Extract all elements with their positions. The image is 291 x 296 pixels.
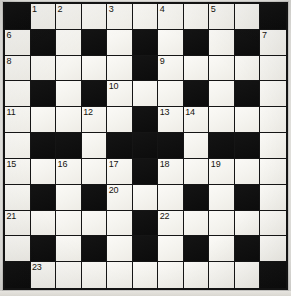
open-square[interactable]: 21 (5, 211, 31, 237)
open-square[interactable] (184, 4, 210, 30)
open-square[interactable] (31, 159, 57, 185)
open-square[interactable] (184, 56, 210, 82)
clue-number: 9 (160, 56, 165, 66)
open-square[interactable] (5, 81, 31, 107)
open-square[interactable]: 23 (31, 262, 57, 288)
open-square[interactable] (184, 262, 210, 288)
open-square[interactable]: 17 (107, 159, 133, 185)
crossword-grid[interactable]: 1234567891011121314151617181920212223 (5, 4, 286, 288)
open-square[interactable] (31, 107, 57, 133)
open-square[interactable]: 6 (5, 30, 31, 56)
open-square[interactable] (235, 262, 261, 288)
open-square[interactable] (107, 30, 133, 56)
open-square[interactable] (82, 262, 108, 288)
open-square[interactable] (133, 262, 159, 288)
open-square[interactable] (56, 211, 82, 237)
open-square[interactable] (82, 133, 108, 159)
open-square[interactable]: 16 (56, 159, 82, 185)
open-square[interactable] (158, 262, 184, 288)
open-square[interactable] (133, 4, 159, 30)
open-square[interactable] (209, 30, 235, 56)
open-square[interactable] (107, 211, 133, 237)
open-square[interactable] (235, 211, 261, 237)
open-square[interactable] (31, 211, 57, 237)
open-square[interactable] (209, 81, 235, 107)
open-square[interactable] (209, 236, 235, 262)
open-square[interactable]: 11 (5, 107, 31, 133)
open-square[interactable] (235, 4, 261, 30)
open-square[interactable]: 5 (209, 4, 235, 30)
open-square[interactable] (184, 211, 210, 237)
open-square[interactable]: 18 (158, 159, 184, 185)
open-square[interactable] (107, 107, 133, 133)
open-square[interactable] (184, 133, 210, 159)
open-square[interactable]: 3 (107, 4, 133, 30)
blocked-square (31, 30, 57, 56)
open-square[interactable] (184, 159, 210, 185)
open-square[interactable]: 19 (209, 159, 235, 185)
open-square[interactable] (56, 56, 82, 82)
blocked-square (5, 262, 31, 288)
open-square[interactable] (82, 4, 108, 30)
open-square[interactable] (235, 159, 261, 185)
open-square[interactable] (107, 236, 133, 262)
open-square[interactable] (107, 56, 133, 82)
open-square[interactable]: 14 (184, 107, 210, 133)
open-square[interactable] (107, 262, 133, 288)
open-square[interactable]: 8 (5, 56, 31, 82)
open-square[interactable] (209, 185, 235, 211)
open-square[interactable] (82, 56, 108, 82)
open-square[interactable]: 1 (31, 4, 57, 30)
open-square[interactable] (5, 133, 31, 159)
open-square[interactable] (133, 185, 159, 211)
open-square[interactable]: 13 (158, 107, 184, 133)
open-square[interactable] (5, 185, 31, 211)
open-square[interactable] (31, 56, 57, 82)
open-square[interactable] (260, 56, 286, 82)
clue-number: 19 (211, 159, 221, 169)
open-square[interactable] (260, 236, 286, 262)
open-square[interactable] (260, 107, 286, 133)
open-square[interactable] (260, 159, 286, 185)
blocked-square (133, 56, 159, 82)
open-square[interactable] (82, 211, 108, 237)
open-square[interactable] (235, 107, 261, 133)
crossword-puzzle: 1234567891011121314151617181920212223 (0, 0, 291, 296)
open-square[interactable]: 12 (82, 107, 108, 133)
open-square[interactable] (158, 185, 184, 211)
open-square[interactable] (56, 81, 82, 107)
open-square[interactable] (56, 185, 82, 211)
clue-number: 7 (262, 30, 267, 40)
clue-number: 16 (58, 159, 68, 169)
open-square[interactable]: 2 (56, 4, 82, 30)
open-square[interactable] (260, 211, 286, 237)
open-square[interactable] (260, 81, 286, 107)
page-bottom-edge (0, 291, 291, 296)
open-square[interactable] (158, 30, 184, 56)
open-square[interactable] (56, 236, 82, 262)
open-square[interactable] (209, 211, 235, 237)
open-square[interactable]: 22 (158, 211, 184, 237)
open-square[interactable]: 10 (107, 81, 133, 107)
open-square[interactable] (56, 107, 82, 133)
open-square[interactable] (209, 107, 235, 133)
open-square[interactable] (209, 262, 235, 288)
open-square[interactable] (260, 133, 286, 159)
open-square[interactable]: 7 (260, 30, 286, 56)
open-square[interactable] (209, 56, 235, 82)
open-square[interactable] (158, 81, 184, 107)
blocked-square (235, 81, 261, 107)
open-square[interactable]: 20 (107, 185, 133, 211)
open-square[interactable]: 15 (5, 159, 31, 185)
open-square[interactable] (133, 81, 159, 107)
open-square[interactable] (56, 262, 82, 288)
open-square[interactable] (82, 159, 108, 185)
open-square[interactable]: 9 (158, 56, 184, 82)
clue-number: 17 (109, 159, 119, 169)
open-square[interactable] (5, 236, 31, 262)
open-square[interactable] (158, 236, 184, 262)
open-square[interactable] (56, 30, 82, 56)
open-square[interactable]: 4 (158, 4, 184, 30)
open-square[interactable] (260, 185, 286, 211)
open-square[interactable] (235, 56, 261, 82)
